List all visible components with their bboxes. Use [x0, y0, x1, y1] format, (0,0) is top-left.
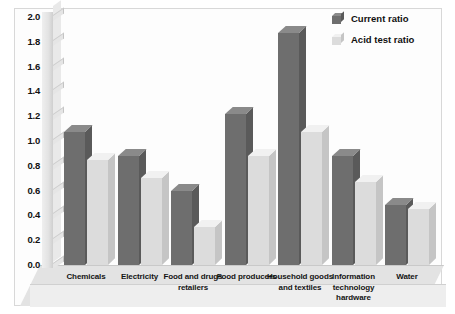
bar-side-face: [376, 175, 383, 265]
acid-test-ratio-swatch: [332, 34, 343, 45]
bar-side-face: [215, 220, 222, 265]
bar[interactable]: [87, 160, 108, 265]
bar-front-face: [248, 156, 269, 265]
bar[interactable]: [171, 191, 192, 265]
bar[interactable]: [64, 132, 85, 265]
bar[interactable]: [355, 182, 376, 265]
y-axis-tick-label: 1.4: [10, 85, 40, 96]
y-axis-tick-label: 2.0: [10, 11, 40, 22]
y-axis-tick-label: 0.8: [10, 160, 40, 171]
y-axis-tick-label: 1.8: [10, 36, 40, 47]
bar[interactable]: [225, 114, 246, 265]
y-axis-tick-label: 0.4: [10, 209, 40, 220]
bar-front-face: [194, 227, 215, 265]
bar-side-face: [162, 171, 169, 265]
y-axis-tick-label: 1.0: [10, 135, 40, 146]
bar-front-face: [87, 160, 108, 265]
bar[interactable]: [301, 132, 322, 265]
bar[interactable]: [278, 33, 299, 265]
bar-front-face: [118, 156, 139, 265]
bar-front-face: [64, 132, 85, 265]
y-axis-tick-label: 0.6: [10, 185, 40, 196]
bar-side-face: [429, 202, 436, 265]
bar-front-face: [385, 205, 406, 265]
legend-item[interactable]: Acid test ratio: [330, 29, 448, 50]
x-axis-category-label: Water: [373, 272, 441, 283]
bar[interactable]: [141, 178, 162, 265]
bar[interactable]: [385, 205, 406, 265]
y-axis: [42, 12, 53, 268]
bar-front-face: [141, 178, 162, 265]
bar[interactable]: [248, 156, 269, 265]
legend-item-label: Current ratio: [351, 13, 409, 24]
legend: Current ratio Acid test ratio: [330, 8, 448, 50]
bar-front-face: [408, 209, 429, 265]
bar[interactable]: [408, 209, 429, 265]
bar-side-face: [108, 153, 115, 265]
y-axis-tick-label: 1.2: [10, 110, 40, 121]
bar-chart: 2.01.81.61.41.21.00.80.60.40.20.0 Chemic…: [0, 0, 455, 314]
bar[interactable]: [118, 156, 139, 265]
bar-front-face: [355, 182, 376, 265]
bar-front-face: [225, 114, 246, 265]
y-axis-tick-label: 1.6: [10, 61, 40, 72]
bar-front-face: [171, 191, 192, 265]
y-axis-tick-label: 0.2: [10, 234, 40, 245]
bar[interactable]: [332, 156, 353, 265]
bar-side-face: [322, 126, 329, 265]
bar-front-face: [332, 156, 353, 265]
bar-side-face: [269, 149, 276, 265]
bar-front-face: [301, 132, 322, 265]
bar-front-face: [278, 33, 299, 265]
bar[interactable]: [194, 227, 215, 265]
legend-item-label: Acid test ratio: [351, 34, 414, 45]
y-axis-tick-label: 0.0: [10, 259, 40, 270]
current-ratio-swatch: [332, 13, 343, 24]
legend-item[interactable]: Current ratio: [330, 8, 448, 29]
